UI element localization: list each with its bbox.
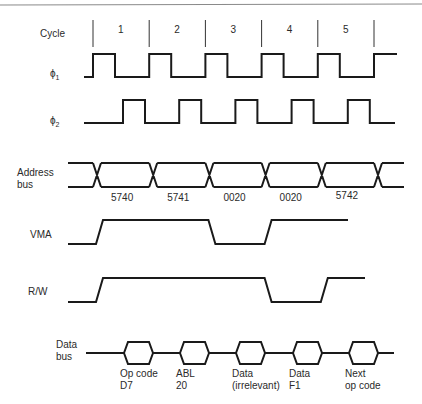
data-bus-label-1: Data	[56, 339, 78, 350]
vma-waveform	[68, 220, 348, 244]
rw-waveform	[68, 278, 365, 302]
address-bus-lines	[68, 163, 404, 187]
data-bus-value-line1: ABL	[176, 368, 195, 379]
data-bus-value-line2: 20	[176, 380, 188, 391]
phi2-waveform	[84, 100, 395, 123]
data-bus-lines	[86, 342, 394, 364]
data-bus-value-line2: F1	[289, 380, 301, 391]
data-bus-value-line1: Next	[345, 368, 366, 379]
data-bus-value-line1: Data	[232, 368, 254, 379]
phi1-label: ϕ1	[50, 68, 60, 81]
cycle-number: 5	[343, 24, 349, 35]
phi1-waveform	[84, 54, 397, 77]
address-bus-label-2: bus	[17, 179, 33, 190]
address-value: 5741	[167, 192, 190, 203]
address-value: 5742	[336, 190, 359, 201]
cycle-number: 3	[231, 24, 237, 35]
rw-label: R/W	[28, 286, 48, 297]
data-bus-value-line1: Data	[289, 368, 311, 379]
data-bus-value-line1: Op code	[120, 368, 158, 379]
address-value: 5740	[111, 192, 134, 203]
address-bus-waveform: 57405741002000205742	[68, 163, 404, 203]
address-bus-label-1: Address	[17, 167, 54, 178]
address-value: 0020	[280, 192, 303, 203]
timing-diagram: Cycle ϕ1 ϕ2 Address bus VMA R/W Data bus…	[0, 0, 422, 404]
data-bus-value-line2: D7	[120, 380, 133, 391]
phi2-label: ϕ2	[50, 115, 60, 128]
cycle-number: 1	[118, 24, 124, 35]
cycle-number: 4	[287, 24, 293, 35]
data-bus-waveform: Op codeD7ABL20Data(irrelevant)DataF1Next…	[86, 342, 394, 391]
vma-label: VMA	[30, 229, 52, 240]
cycle-number: 2	[174, 24, 180, 35]
data-bus-value-line2: op code	[345, 380, 381, 391]
data-bus-value-line2: (irrelevant)	[232, 380, 280, 391]
top-rule	[0, 4, 422, 5]
cycle-markers: 12345	[93, 20, 374, 47]
data-bus-label-2: bus	[56, 351, 72, 362]
cycle-label: Cycle	[40, 28, 65, 39]
address-value: 0020	[223, 192, 246, 203]
